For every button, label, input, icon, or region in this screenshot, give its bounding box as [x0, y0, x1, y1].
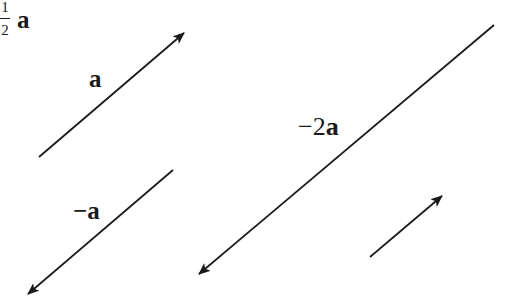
vector-neg-2a-arrow: [199, 25, 494, 274]
vector-neg-a-prefix: −: [73, 197, 87, 224]
vector-neg-a-label: −a: [73, 198, 100, 223]
vector-neg-a-arrow: [28, 170, 173, 294]
vector-arrows: [0, 0, 515, 299]
vector-neg-2a-label: −2a: [298, 114, 339, 140]
vector-diagram: a −a −2a 1 2 a: [0, 0, 515, 299]
vector-half-a-arrow: [370, 196, 442, 257]
vector-a-symbol: a: [89, 65, 102, 92]
vector-neg-2a-prefix: −2: [298, 112, 326, 141]
vector-neg-2a-symbol: a: [326, 112, 339, 141]
vector-neg-a-symbol: a: [87, 197, 100, 224]
vector-a-arrow: [39, 33, 184, 157]
vector-a-label: a: [89, 66, 102, 91]
